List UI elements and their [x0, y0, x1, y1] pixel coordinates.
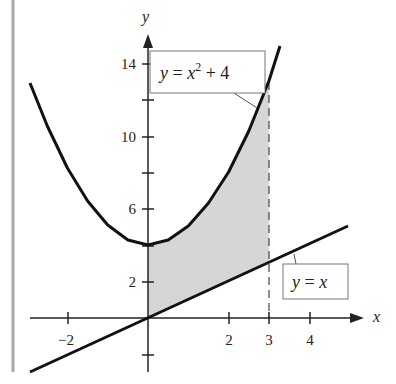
x-axis: −2 2 3 4 x — [30, 308, 380, 348]
x-axis-arrow-icon — [350, 313, 364, 323]
x-tick-label: −2 — [58, 332, 74, 348]
y-tick-label: 6 — [129, 201, 137, 217]
y-axis-label: y — [140, 8, 150, 26]
x-axis-label: x — [372, 308, 380, 325]
line-equation: y = x — [290, 272, 327, 292]
area-between-curves-figure: −2 2 3 4 x 2 6 10 14 y y = x2 + 4 — [0, 0, 396, 384]
x-tick-label: 3 — [265, 332, 273, 348]
parabola-label-box: y = x2 + 4 — [150, 51, 265, 108]
y-tick-label: 10 — [121, 129, 136, 145]
x-tick-label: 4 — [306, 332, 314, 348]
y-tick-label: 2 — [129, 274, 137, 290]
x-tick-label: 2 — [225, 332, 233, 348]
line-label-box: y = x — [283, 254, 348, 299]
parabola-equation: y = x2 + 4 — [158, 60, 229, 83]
y-tick-label: 14 — [121, 56, 137, 72]
shaded-region — [148, 81, 269, 318]
y-axis-arrow-icon — [143, 34, 153, 48]
